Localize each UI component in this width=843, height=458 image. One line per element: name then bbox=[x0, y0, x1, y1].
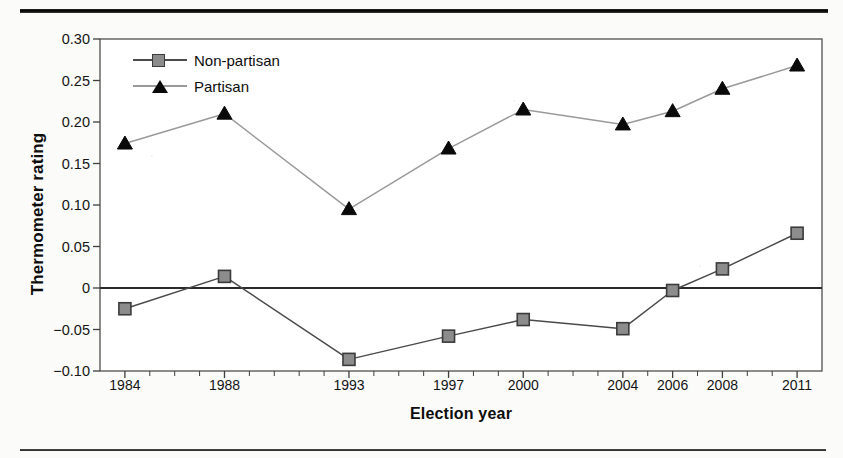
legend-item-non-partisan: Non-partisan bbox=[133, 48, 280, 72]
data-point-marker bbox=[716, 263, 728, 275]
y-axis-title: Thermometer rating bbox=[28, 84, 48, 344]
data-point-marker bbox=[119, 303, 131, 315]
figure-frame: −0.10−0.0500.050.100.150.200.250.30 1984… bbox=[0, 0, 843, 458]
x-tick-label: 1988 bbox=[209, 377, 240, 393]
x-tick-label: 1997 bbox=[433, 377, 464, 393]
data-point-marker bbox=[667, 284, 679, 296]
x-axis-title: Election year bbox=[100, 405, 822, 423]
x-tick-label: 2006 bbox=[657, 377, 688, 393]
y-axis-ticks bbox=[93, 39, 100, 371]
data-point-marker bbox=[791, 227, 803, 239]
x-tick-label: 1984 bbox=[109, 377, 140, 393]
data-point-marker bbox=[517, 314, 529, 326]
data-point-marker bbox=[343, 353, 355, 365]
y-tick-label: 0.30 bbox=[28, 31, 90, 47]
square-marker-icon bbox=[152, 54, 165, 67]
x-tick-label: 2011 bbox=[782, 377, 812, 393]
chart-legend: Non-partisan Partisan bbox=[133, 48, 280, 100]
data-point-marker bbox=[617, 323, 629, 335]
data-point-marker bbox=[443, 330, 455, 342]
legend-label-partisan: Partisan bbox=[194, 78, 249, 95]
legend-swatch-non-partisan bbox=[133, 51, 187, 69]
x-tick-label: 2000 bbox=[508, 377, 539, 393]
legend-swatch-partisan bbox=[133, 77, 187, 95]
legend-label-non-partisan: Non-partisan bbox=[194, 52, 280, 69]
x-tick-label: 1993 bbox=[333, 377, 364, 393]
data-point-marker bbox=[218, 270, 230, 282]
legend-item-partisan: Partisan bbox=[133, 74, 280, 98]
line-chart: −0.10−0.0500.050.100.150.200.250.30 1984… bbox=[0, 0, 843, 458]
x-tick-label: 2008 bbox=[707, 377, 738, 393]
y-tick-label: −0.10 bbox=[28, 363, 90, 379]
triangle-marker-icon bbox=[152, 80, 168, 93]
x-tick-label: 2004 bbox=[607, 377, 638, 393]
